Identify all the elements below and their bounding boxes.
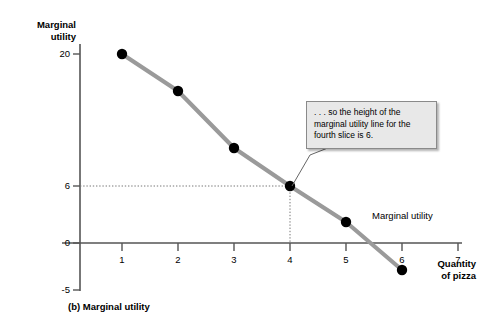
y-tick-label-minus-5: -5: [48, 284, 70, 295]
marginal-utility-line: [122, 54, 402, 270]
y-axis-title: Marginal utility: [16, 19, 76, 42]
data-point-markers: [117, 49, 407, 275]
data-point: [229, 143, 239, 153]
series-label-marginal-utility: Marginal utility: [372, 210, 433, 221]
y-tick-label-20: 20: [48, 48, 70, 59]
data-point: [341, 217, 351, 227]
figure-caption: (b) Marginal utility: [68, 301, 150, 312]
x-tick-label-4: 4: [280, 254, 300, 265]
guide-lines: [80, 186, 290, 243]
x-tick-label-1: 1: [112, 254, 132, 265]
y-tick-label-6: 6: [48, 180, 70, 191]
x-tick-label-6: 6: [392, 254, 412, 265]
x-tick-label-3: 3: [224, 254, 244, 265]
y-tick-label-0: 0: [48, 237, 70, 248]
x-tick-label-5: 5: [336, 254, 356, 265]
x-tick-label-2: 2: [168, 254, 188, 265]
data-point: [173, 86, 183, 96]
callout-leader-line: [292, 155, 310, 186]
y-axis-ticks: [73, 54, 80, 290]
x-axis-ticks: [122, 243, 458, 251]
x-tick-label-7: 7: [448, 254, 468, 265]
callout-annotation: . . . so the height of the marginal util…: [306, 101, 437, 149]
data-point: [117, 49, 127, 59]
chart-figure: Marginal utility Quantity of pizza 20 6 …: [0, 0, 486, 327]
